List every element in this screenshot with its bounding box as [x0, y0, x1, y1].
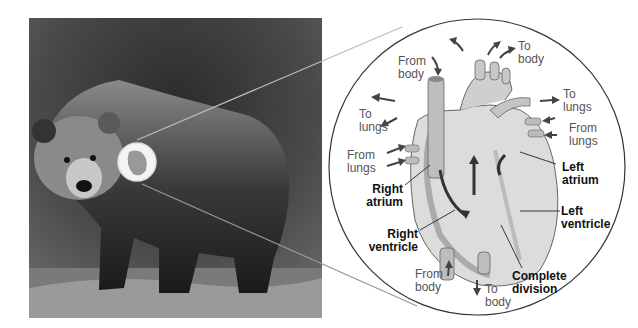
label-from-lungs-left: Fromlungs — [347, 149, 376, 175]
label-right-ventricle: Rightventricle — [368, 228, 418, 254]
label-left-atrium: Leftatrium — [562, 161, 599, 187]
label-complete-division: Completedivision — [512, 270, 567, 296]
label-right-atrium: Rightatrium — [363, 183, 403, 209]
label-to-body-bottom: Tobody — [485, 283, 511, 309]
label-from-body-top: Frombody — [398, 55, 426, 81]
label-to-lungs-right: Tolungs — [563, 88, 592, 114]
label-to-body-top: Tobody — [518, 40, 544, 66]
label-to-lungs-left: Tolungs — [359, 108, 388, 134]
label-from-lungs-right: Fromlungs — [569, 122, 598, 148]
label-from-body-bottom: Frombody — [415, 268, 443, 294]
label-left-ventricle: Leftventricle — [561, 205, 610, 231]
